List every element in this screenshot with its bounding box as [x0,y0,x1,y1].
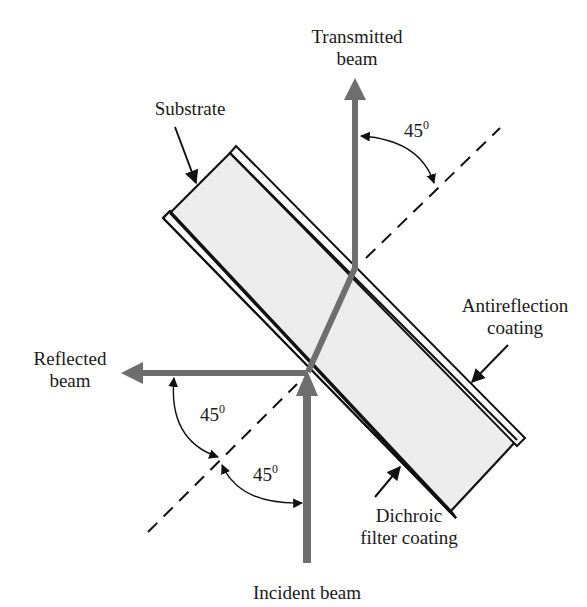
reflected-beam-arrow [121,362,306,384]
angle-value: 45 [253,464,272,485]
angle-label-transmitted: 450 [404,118,429,142]
dichroic-filter-coating-label: Dichroic filter coating [344,505,474,549]
incident-beam-arrow [296,370,318,563]
angle-value: 45 [200,404,219,425]
dichroic-label-line2: filter coating [344,527,474,549]
transmitted-beam-arrow [344,78,366,270]
dichroic-label-line1: Dichroic [344,505,474,527]
angle-label-incident: 450 [253,462,278,486]
substrate-pointer-arrow [175,127,196,183]
incident-label-text: Incident beam [237,582,377,604]
angle-arc-transmitted [361,136,434,183]
reflected-beam-label: Reflected beam [20,348,120,392]
transmitted-label-line1: Transmitted [292,26,422,48]
antireflection-coating-label: Antireflection coating [450,295,580,339]
degree-mark: 0 [272,462,278,476]
degree-mark: 0 [219,402,225,416]
reflected-label-line2: beam [20,370,120,392]
antireflection-pointer-arrow [472,345,508,382]
substrate-label-text: Substrate [140,98,240,120]
transmitted-beam-label: Transmitted beam [292,26,422,70]
degree-mark: 0 [423,118,429,132]
angle-value: 45 [404,120,423,141]
incident-beam-label: Incident beam [237,582,377,604]
antireflection-label-line2: coating [450,317,580,339]
transmitted-label-line2: beam [292,48,422,70]
antireflection-label-line1: Antireflection [450,295,580,317]
dichroic-pointer-arrow [375,467,400,497]
substrate-label: Substrate [140,98,240,120]
reflected-label-line1: Reflected [20,348,120,370]
angle-label-reflected: 450 [200,402,225,426]
normal-line-upper [366,128,500,258]
